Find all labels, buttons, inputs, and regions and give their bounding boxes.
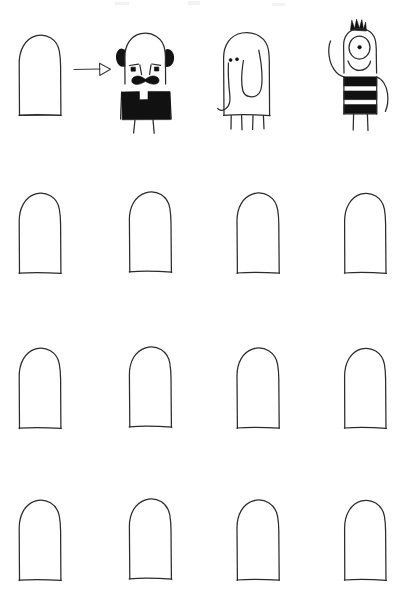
cell-r1c2[interactable] — [108, 16, 194, 134]
blank-arch-icon — [124, 332, 180, 432]
cell-r4c4[interactable] — [339, 485, 395, 585]
blank-arch-icon — [232, 178, 288, 278]
cell-r3c4[interactable] — [339, 333, 395, 433]
blank-arch-icon — [14, 178, 70, 278]
cell-r3c1[interactable] — [14, 333, 70, 433]
cell-r3c2[interactable] — [124, 332, 180, 432]
blank-arch-icon — [339, 178, 395, 278]
scan-artifact — [188, 1, 200, 5]
blank-arch-icon — [339, 485, 395, 585]
cell-r4c2[interactable] — [124, 484, 180, 584]
cell-r1c3[interactable] — [216, 16, 298, 134]
cell-r3c3[interactable] — [232, 333, 288, 433]
cell-r4c1[interactable] — [14, 485, 70, 585]
cell-r1c1[interactable] — [14, 20, 70, 120]
blank-arch-icon — [124, 484, 180, 584]
character-bald-man — [108, 16, 194, 134]
cell-r1c4[interactable] — [318, 10, 404, 135]
worksheet-sheet — [0, 0, 409, 603]
blank-arch-icon — [339, 333, 395, 433]
cell-r2c1[interactable] — [14, 178, 70, 278]
blank-arch-icon — [124, 177, 180, 277]
cell-r2c4[interactable] — [339, 178, 395, 278]
blank-arch-icon — [232, 333, 288, 433]
blank-arch-icon — [14, 333, 70, 433]
cell-r4c3[interactable] — [232, 485, 288, 585]
cell-r2c3[interactable] — [232, 178, 288, 278]
blank-arch-icon — [232, 485, 288, 585]
scan-artifact — [272, 3, 285, 6]
cell-r2c2[interactable] — [124, 177, 180, 277]
blank-arch-icon — [14, 20, 70, 120]
character-elephant — [216, 16, 298, 134]
scan-artifact — [115, 2, 129, 5]
blank-arch-icon — [14, 485, 70, 585]
character-cyclops — [318, 10, 404, 135]
